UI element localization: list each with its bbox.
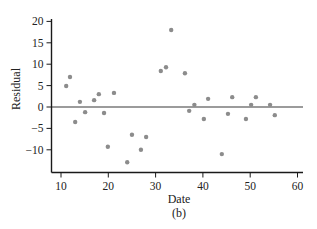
y-axis: −10−505101520 xyxy=(26,15,52,172)
data-point xyxy=(144,135,148,139)
x-tick-label: 30 xyxy=(150,180,162,192)
data-point xyxy=(83,110,87,114)
y-tick-label: 15 xyxy=(32,37,44,49)
x-tick-label: 60 xyxy=(292,180,304,192)
data-point xyxy=(192,103,196,107)
data-point xyxy=(230,95,234,99)
data-point xyxy=(206,97,210,101)
data-point xyxy=(183,71,187,75)
y-tick-label: −5 xyxy=(31,122,43,134)
data-point xyxy=(125,160,129,164)
x-axis-title: Date xyxy=(168,192,191,206)
data-point xyxy=(244,117,248,121)
x-tick-label: 10 xyxy=(55,180,67,192)
data-point xyxy=(97,92,101,96)
data-point xyxy=(164,65,168,69)
x-axis: 102030405060 xyxy=(52,173,304,192)
data-point xyxy=(273,113,277,117)
x-tick-label: 50 xyxy=(244,180,256,192)
data-point xyxy=(220,152,224,156)
residual-scatter-chart: −10−505101520 102030405060 Residual Date… xyxy=(0,0,317,229)
data-point xyxy=(78,100,82,104)
data-point xyxy=(268,103,272,107)
y-tick-label: 10 xyxy=(32,58,44,70)
data-point xyxy=(106,145,110,149)
data-point xyxy=(68,75,72,79)
data-point xyxy=(169,28,173,32)
x-axis-ticks: 102030405060 xyxy=(55,173,303,192)
data-point xyxy=(64,84,68,88)
data-point xyxy=(73,120,77,124)
data-point xyxy=(187,109,191,113)
y-tick-label: 0 xyxy=(38,101,44,113)
data-points xyxy=(64,28,277,165)
data-point xyxy=(112,91,116,95)
y-axis-title: Residual xyxy=(9,67,23,110)
data-point xyxy=(159,69,163,73)
data-point xyxy=(202,117,206,121)
y-tick-label: −10 xyxy=(26,144,44,156)
data-point xyxy=(226,112,230,116)
data-point xyxy=(139,148,143,152)
y-axis-ticks: −10−505101520 xyxy=(26,15,52,155)
data-point xyxy=(254,95,258,99)
data-point xyxy=(92,98,96,102)
y-tick-label: 20 xyxy=(32,15,44,27)
plot-area xyxy=(52,28,304,165)
data-point xyxy=(130,133,134,137)
x-tick-label: 20 xyxy=(103,180,115,192)
data-point xyxy=(102,111,106,115)
x-tick-label: 40 xyxy=(197,180,209,192)
y-tick-label: 5 xyxy=(38,80,44,92)
data-point xyxy=(249,103,253,107)
figure-caption: (b) xyxy=(172,206,186,220)
